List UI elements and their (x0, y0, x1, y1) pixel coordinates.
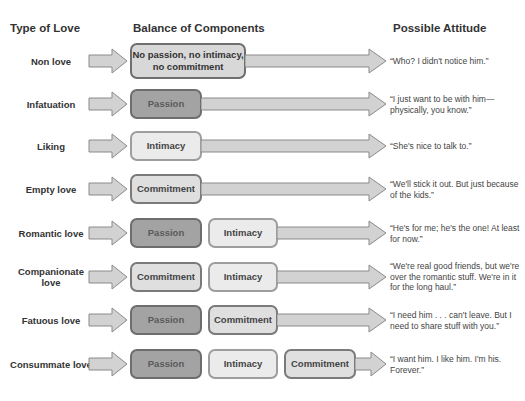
love-type-label: Infatuation (8, 99, 94, 110)
intimacy-box: Intimacy (130, 131, 202, 161)
passion-box: Passion (130, 89, 202, 119)
love-type-label: Empty love (8, 184, 94, 195)
intimacy-box: Intimacy (208, 218, 278, 248)
love-type-label: Fatuous love (8, 315, 94, 326)
attitude-quote: “She's nice to talk to.” (390, 141, 520, 152)
commitment-box: Commitment (130, 262, 202, 292)
commitment-box: Commitment (208, 305, 278, 335)
type-of-love-header: Type of Love (10, 22, 80, 34)
possible-attitude-header: Possible Attitude (393, 22, 487, 34)
long-arrow-icon (277, 307, 387, 333)
intimacy-box: Intimacy (208, 349, 278, 379)
attitude-quote: “I just want to be with him—physically, … (390, 94, 520, 115)
love-type-label: Liking (8, 141, 94, 152)
arrow-icon (88, 133, 128, 159)
arrow-icon (88, 176, 128, 202)
long-arrow-icon (245, 48, 387, 74)
row-romantic-love: Romantic love Passion Intimacy “He's for… (0, 213, 525, 253)
attitude-quote: “We'll stick it out. But just because of… (390, 179, 520, 200)
component-none-box: No passion, no intimacy, no commitment (130, 43, 246, 79)
arrow-icon (88, 264, 128, 290)
row-consummate-love: Consummate love Passion Intimacy Commitm… (0, 344, 525, 384)
arrow-icon (88, 351, 128, 377)
love-type-label: Non love (8, 56, 94, 67)
row-fatuous-love: Fatuous love Passion Commitment “I need … (0, 300, 525, 340)
commitment-box: Commitment (284, 349, 356, 379)
love-type-label: Consummate love (8, 359, 94, 370)
passion-box: Passion (130, 218, 202, 248)
long-arrow-icon (201, 176, 387, 202)
love-type-label: Romantic love (8, 228, 94, 239)
long-arrow-icon (355, 351, 387, 377)
attitude-quote: “I want him. I like him. I'm his. Foreve… (390, 354, 520, 375)
commitment-box: Commitment (130, 174, 202, 204)
arrow-icon (88, 91, 128, 117)
long-arrow-icon (277, 220, 387, 246)
attitude-quote: “He's for me; he's the one! At least for… (390, 223, 520, 244)
long-arrow-icon (277, 264, 387, 290)
arrow-icon (88, 307, 128, 333)
row-companionate-love: Companionate love Commitment Intimacy “W… (0, 257, 525, 297)
arrow-icon (88, 48, 128, 74)
attitude-quote: “I need him . . . can't leave. But I nee… (390, 310, 520, 331)
attitude-quote: “Who? I didn't notice him.” (390, 56, 520, 67)
row-non-love: Non love No passion, no intimacy, no com… (0, 41, 525, 81)
long-arrow-icon (201, 133, 387, 159)
row-empty-love: Empty love Commitment “We'll stick it ou… (0, 169, 525, 209)
intimacy-box: Intimacy (208, 262, 278, 292)
passion-box: Passion (130, 349, 202, 379)
passion-box: Passion (130, 305, 202, 335)
balance-of-components-header: Balance of Components (133, 22, 265, 34)
love-type-label: Companionate love (8, 266, 94, 288)
long-arrow-icon (201, 91, 387, 117)
attitude-quote: “We're real good friends, but we're over… (390, 261, 520, 293)
row-liking: Liking Intimacy “She's nice to talk to.” (0, 126, 525, 166)
arrow-icon (88, 220, 128, 246)
row-infatuation: Infatuation Passion “I just want to be w… (0, 84, 525, 124)
